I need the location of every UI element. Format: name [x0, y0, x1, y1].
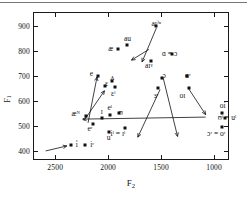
data-point — [126, 44, 129, 47]
x-tick-top — [108, 13, 109, 17]
shift-arrow — [131, 49, 148, 60]
y-tick-right — [224, 51, 228, 52]
y-axis-label: F1 — [3, 95, 13, 102]
y-tick-right — [224, 151, 228, 152]
data-point-label: ɑ = ɔ — [162, 50, 177, 58]
data-point-label: aɪˠ — [145, 62, 153, 70]
y-tick-right — [224, 26, 228, 27]
top-divider — [0, 2, 247, 3]
x-tick — [55, 155, 56, 159]
data-point-label: au — [124, 35, 131, 43]
y-tick-label: 800 — [18, 46, 30, 55]
x-axis-label-subscript: 2 — [132, 182, 135, 189]
x-tick — [161, 155, 162, 159]
y-tick-right — [224, 76, 228, 77]
data-point — [96, 74, 99, 77]
y-axis-label-subscript: 1 — [6, 95, 12, 98]
data-point — [156, 87, 159, 90]
data-point-label: iˡ = ɪˡ — [111, 130, 126, 138]
data-point-label: ʊ — [119, 109, 123, 117]
data-point — [187, 86, 190, 89]
y-tick — [34, 126, 38, 127]
vowel-formant-chart: F1 F2 4005006007008009002500200015001000… — [0, 0, 247, 197]
x-tick-top — [214, 13, 215, 17]
data-point-label: aɪˀⁿ — [151, 20, 161, 28]
y-tick-right — [224, 126, 228, 127]
data-point — [69, 144, 72, 147]
data-point-label: eˡ — [107, 104, 112, 112]
data-point — [220, 125, 223, 128]
x-tick-label: 1500 — [153, 163, 169, 172]
data-point — [108, 113, 111, 116]
data-point-label: ʊˡ = uˡ — [218, 114, 236, 122]
shift-arrows-layer — [34, 13, 230, 161]
x-axis-label: F2 — [33, 178, 229, 189]
data-point-label: ɑʳ — [185, 72, 191, 80]
data-point-label: oi — [220, 103, 226, 111]
data-point — [220, 111, 223, 114]
data-point-label: ɔ — [163, 72, 166, 80]
shift-arrow — [88, 77, 97, 123]
data-point — [84, 114, 87, 117]
y-tick-label: 700 — [18, 71, 30, 80]
y-tick — [34, 151, 38, 152]
y-tick — [34, 51, 38, 52]
data-point — [100, 117, 103, 120]
x-tick-label: 2000 — [100, 163, 116, 172]
y-tick — [34, 26, 38, 27]
data-point — [84, 144, 87, 147]
y-tick-label: 600 — [18, 96, 30, 105]
shift-arrow — [163, 78, 177, 136]
y-tick-label: 400 — [18, 146, 30, 155]
data-point — [116, 48, 119, 51]
data-point-label: ɛ — [105, 80, 108, 88]
data-point-label: ɜʳ — [154, 92, 159, 100]
x-tick — [108, 155, 109, 159]
data-point-label: ʌ — [111, 74, 115, 82]
y-tick-label: 900 — [18, 21, 30, 30]
shift-arrow — [189, 89, 206, 115]
data-point-label: æᴺ — [72, 110, 80, 118]
y-tick — [34, 101, 38, 102]
data-point-label: oɪ — [179, 93, 185, 101]
x-tick — [214, 155, 215, 159]
x-tick-top — [161, 13, 162, 17]
data-point-label: æ — [108, 45, 113, 53]
x-tick-label: 2500 — [47, 163, 63, 172]
data-point-label: ɛˡ — [111, 90, 115, 98]
data-point-label: ɪ — [101, 108, 103, 116]
data-point-label: eʳ — [87, 125, 92, 133]
data-point-label: i̇ — [76, 142, 78, 150]
shift-arrow — [142, 28, 156, 62]
x-tick-top — [55, 13, 56, 17]
x-tick-label: 1000 — [206, 163, 222, 172]
y-tick — [34, 76, 38, 77]
data-point-label: ɔʳ = oʳ — [207, 130, 225, 138]
data-point-label: iʳ — [90, 142, 94, 150]
y-tick-label: 500 — [18, 121, 30, 130]
data-point-label: e — [90, 70, 93, 78]
plot-area: 4005006007008009002500200015001000i̇iʳui… — [33, 12, 229, 160]
